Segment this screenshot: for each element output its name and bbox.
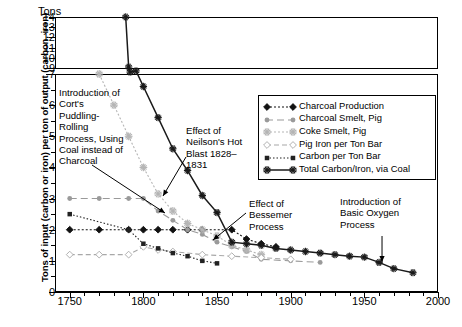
y-tick-mark xyxy=(49,167,55,168)
x-tick-minor xyxy=(129,292,130,296)
legend-item-total-carbon-iron-via-coal[interactable]: Total Carbon/Iron, via Coal xyxy=(263,162,431,175)
y-tick-mark xyxy=(49,136,55,137)
data-point-asterisk xyxy=(316,249,323,256)
y-tick-mark xyxy=(49,105,55,106)
data-point-open-diamond xyxy=(258,254,265,261)
data-point-open-diamond xyxy=(287,256,294,263)
y-tick-mark xyxy=(49,48,55,49)
y-tick-mark xyxy=(49,58,55,59)
data-point-square xyxy=(141,241,145,245)
y-tick-minor xyxy=(51,121,55,122)
legend-symbol-star-icon xyxy=(263,124,297,136)
x-tick-minor xyxy=(409,292,410,296)
data-point-asterisk xyxy=(289,166,297,174)
x-tick-minor xyxy=(261,292,262,296)
data-point-dot xyxy=(318,260,323,265)
data-point-diamond xyxy=(290,104,297,111)
data-point-diamond xyxy=(155,226,162,233)
y-tick-mark xyxy=(49,68,55,69)
chart-legend: Charcoal ProductionCharcoal Smelt, PigCo… xyxy=(258,95,436,180)
data-point-asterisk xyxy=(243,240,250,247)
legend-label: Pig Iron per Ton Bar xyxy=(297,138,382,149)
data-point-square xyxy=(126,227,130,231)
data-point-star xyxy=(184,220,192,228)
y-tick-mark xyxy=(49,37,55,38)
data-point-asterisk xyxy=(390,265,397,272)
data-point-square xyxy=(171,251,175,255)
data-point-square xyxy=(265,155,269,159)
data-point-square xyxy=(291,155,295,159)
annotation-bessemer-process: Effect of Bessemer Process xyxy=(249,198,307,232)
data-point-dot xyxy=(97,196,102,201)
data-point-square xyxy=(200,259,204,263)
data-point-open-diamond xyxy=(125,251,132,258)
data-point-open-diamond xyxy=(66,251,73,258)
data-point-asterisk xyxy=(361,253,368,260)
x-tick-minor xyxy=(232,292,233,296)
legend-label: Coke Smelt, Pig xyxy=(297,125,366,136)
y-tick-minor xyxy=(51,245,55,246)
data-point-asterisk xyxy=(346,253,353,260)
annotation-leader-line xyxy=(92,165,165,213)
series-line xyxy=(70,214,217,263)
data-point-square xyxy=(215,261,219,265)
chart-root: Tons of input (carbon or iron) per ton o… xyxy=(0,0,462,327)
x-tick-minor xyxy=(247,292,248,296)
data-point-dot xyxy=(265,117,270,122)
data-point-star xyxy=(289,129,297,137)
data-point-diamond xyxy=(169,226,176,233)
legend-label: Charcoal Smelt, Pig xyxy=(297,112,382,123)
y-tick-mark xyxy=(49,199,55,200)
data-point-star xyxy=(139,164,147,172)
legend-item-carbon-per-ton-bar[interactable]: Carbon per Ton Bar xyxy=(263,149,431,162)
annotation-leader-line xyxy=(379,236,384,262)
x-tick-minor xyxy=(158,292,159,296)
legend-item-pig-iron-per-ton-bar[interactable]: Pig Iron per Ton Bar xyxy=(263,137,431,150)
x-tick-minor xyxy=(188,292,189,296)
x-tick-mark xyxy=(70,292,71,298)
data-point-asterisk xyxy=(302,248,309,255)
data-point-diamond xyxy=(228,226,235,233)
annotation-corts-puddling: Introduction of Cort's Puddling-Rolling … xyxy=(59,87,125,167)
y-tick-minor xyxy=(51,183,55,184)
legend-item-charcoal-smelt-pig[interactable]: Charcoal Smelt, Pig xyxy=(263,112,431,125)
data-point-square xyxy=(185,254,189,258)
data-point-square xyxy=(67,212,71,216)
x-tick-minor xyxy=(84,292,85,296)
data-point-square xyxy=(156,246,160,250)
data-point-open-diamond xyxy=(290,142,297,149)
annotation-arrowhead xyxy=(163,190,168,196)
series-charcoal-production xyxy=(66,226,279,250)
data-point-diamond xyxy=(66,226,73,233)
x-tick-minor xyxy=(173,292,174,296)
data-point-asterisk xyxy=(287,246,294,253)
series-carbon-per-ton-bar xyxy=(67,212,219,266)
x-tick-mark xyxy=(438,292,439,298)
legend-item-coke-smelt-pig[interactable]: Coke Smelt, Pig xyxy=(263,124,431,137)
data-point-dot xyxy=(67,196,72,201)
x-tick-minor xyxy=(394,292,395,296)
legend-symbol-square-icon xyxy=(263,150,297,162)
data-point-asterisk xyxy=(263,166,271,174)
data-point-star xyxy=(263,129,271,137)
data-point-dot xyxy=(185,227,190,232)
annotation-leader-line xyxy=(163,157,186,196)
annotation-basic-oxygen-process: Introduction of Basic Oxygen Process xyxy=(340,196,402,230)
y-tick-minor xyxy=(51,214,55,215)
legend-label: Total Carbon/Iron, via Coal xyxy=(297,163,410,174)
legend-item-charcoal-production[interactable]: Charcoal Production xyxy=(263,99,431,112)
x-tick-minor xyxy=(99,292,100,296)
x-tick-minor xyxy=(114,292,115,296)
x-tick-minor xyxy=(276,292,277,296)
data-point-diamond xyxy=(96,226,103,233)
data-point-asterisk xyxy=(154,114,161,121)
y-tick-minor xyxy=(51,152,55,153)
y-tick-minor xyxy=(51,276,55,277)
legend-symbol-diamond-icon xyxy=(263,99,297,111)
x-tick-minor xyxy=(305,292,306,296)
data-point-open-diamond xyxy=(199,251,206,258)
data-point-open-diamond xyxy=(264,142,271,149)
x-tick-minor xyxy=(350,292,351,296)
data-point-star xyxy=(95,70,103,78)
legend-label: Carbon per Ton Bar xyxy=(297,150,381,161)
